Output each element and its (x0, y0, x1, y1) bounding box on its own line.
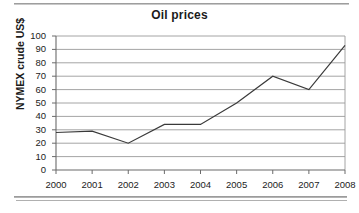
bottom-divider-lower (16, 200, 347, 201)
x-tick-label: 2001 (75, 180, 109, 190)
gridlines (56, 36, 345, 170)
y-tick-label: 10 (20, 152, 46, 162)
y-tick-label: 100 (20, 31, 46, 41)
x-tick-label: 2006 (256, 180, 290, 190)
x-tick-label: 2002 (111, 180, 145, 190)
y-tick-label: 80 (20, 58, 46, 68)
y-tick-label: 70 (20, 71, 46, 81)
y-tick-label: 50 (20, 98, 46, 108)
x-tick-label: 2007 (292, 180, 326, 190)
data-series-line (56, 45, 345, 143)
tick-marks (52, 36, 345, 174)
x-tick-label: 2005 (220, 180, 254, 190)
plot-area: 0102030405060708090100 20002001200220032… (0, 0, 359, 213)
x-tick-label: 2000 (39, 180, 73, 190)
x-tick-label: 2004 (184, 180, 218, 190)
x-tick-label: 2008 (328, 180, 359, 190)
chart-page: Oil prices NYMEX crude US$ 0102030405060… (0, 0, 359, 213)
bottom-divider-upper (14, 196, 347, 198)
y-tick-label: 90 (20, 44, 46, 54)
y-tick-label: 60 (20, 85, 46, 95)
y-tick-label: 40 (20, 111, 46, 121)
y-tick-label: 20 (20, 138, 46, 148)
x-tick-label: 2003 (147, 180, 181, 190)
y-tick-label: 30 (20, 125, 46, 135)
y-tick-label: 0 (20, 165, 46, 175)
